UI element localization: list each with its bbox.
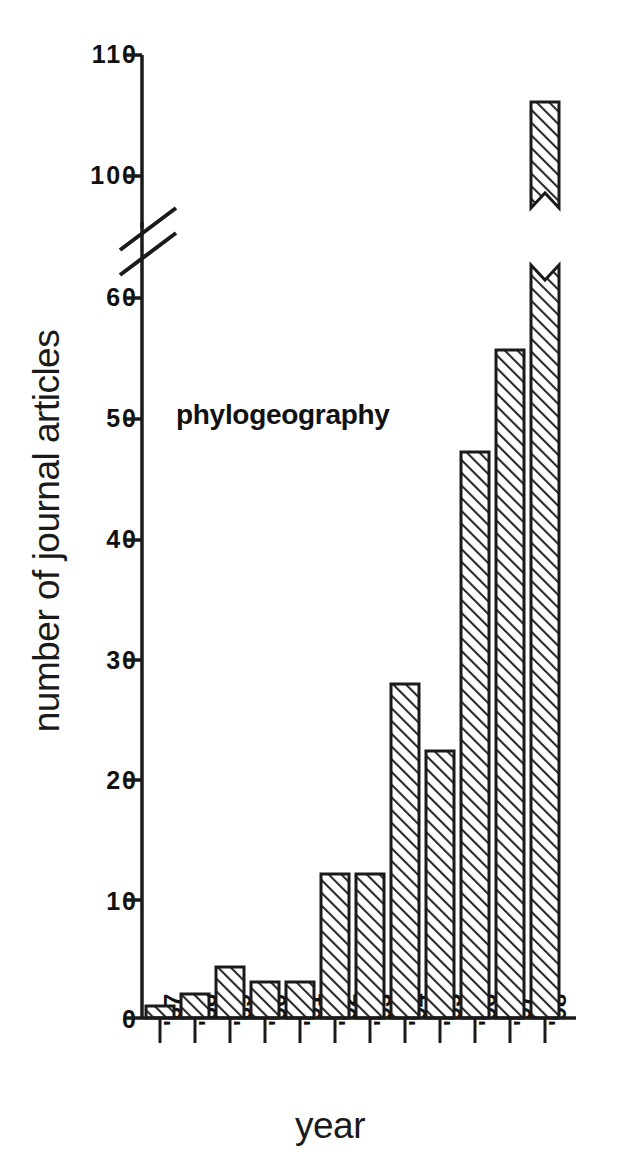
bar-94	[391, 684, 419, 1018]
bar-89	[216, 967, 244, 1018]
bar-95	[426, 751, 454, 1018]
bar-98-upper	[531, 102, 559, 208]
y-axis	[120, 55, 176, 1018]
bar-98-lower	[531, 265, 559, 1018]
x-axis	[142, 1018, 576, 1043]
bar-87	[146, 1006, 174, 1018]
axis-break-mark	[120, 208, 176, 275]
bar-chart-figure: number of journal articles year 110 100 …	[0, 0, 628, 1175]
plot-area	[0, 0, 628, 1175]
bar-97	[496, 350, 524, 1018]
bar-93	[356, 874, 384, 1018]
bar-88	[181, 994, 209, 1018]
bar-92	[321, 874, 349, 1018]
bar-91	[286, 982, 314, 1018]
bar-group	[146, 102, 559, 1018]
bar-96	[461, 452, 489, 1018]
bar-90	[251, 982, 279, 1018]
